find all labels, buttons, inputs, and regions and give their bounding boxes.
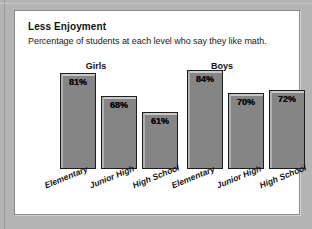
plot-area: Girls Boys 81% 68% 61% 84% 70% 72% xyxy=(15,11,301,216)
bar-girls-elementary: 81% xyxy=(60,73,96,169)
bar-value-boys-elementary: 84% xyxy=(188,74,222,84)
chart-card: Less Enjoyment Percentage of students at… xyxy=(14,10,300,215)
outer-frame-left-edge xyxy=(4,0,5,229)
outer-frame-top-edge xyxy=(0,3,312,4)
bar-boys-high-school: 72% xyxy=(269,90,305,169)
bar-value-girls-junior-high: 68% xyxy=(102,100,136,110)
bar-value-boys-junior-high: 70% xyxy=(229,97,263,107)
bar-boys-junior-high: 70% xyxy=(228,93,264,169)
bar-value-girls-high-school: 61% xyxy=(143,116,177,126)
bar-girls-junior-high: 68% xyxy=(101,96,137,169)
bar-girls-high-school: 61% xyxy=(142,112,178,169)
chart-screenshot: Less Enjoyment Percentage of students at… xyxy=(0,0,312,229)
bar-boys-elementary: 84% xyxy=(187,70,223,169)
group-title-girls: Girls xyxy=(61,61,131,71)
bar-value-boys-high-school: 72% xyxy=(270,94,304,104)
bar-value-girls-elementary: 81% xyxy=(61,77,95,87)
